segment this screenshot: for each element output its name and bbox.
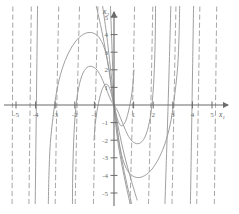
y-tick-label--4: -4 [102, 172, 108, 180]
y-tick-label-2: 2 [105, 66, 109, 74]
plot-canvas: -5-4-3-2-112345-5-4-3-2-112345 x1 x2 [0, 0, 239, 214]
x-tick-label--2: -2 [72, 111, 78, 119]
x-tick-label-3: 3 [171, 111, 175, 119]
y-tick-label--2: -2 [102, 137, 108, 145]
x-tick-label-2: 2 [151, 111, 155, 119]
x-tick-label--4: -4 [33, 111, 39, 119]
y-tick-label-1: 1 [105, 84, 109, 92]
x-tick-label--5: -5 [13, 111, 19, 119]
x-tick-label--3: -3 [52, 111, 58, 119]
y-tick-label-3: 3 [105, 49, 109, 57]
x-tick-label-5: 5 [210, 111, 214, 119]
y-tick-label-4: 4 [105, 31, 109, 39]
phase-portrait-figure: -5-4-3-2-112345-5-4-3-2-112345 x1 x2 [0, 0, 239, 214]
x-tick-label--1: -1 [91, 111, 97, 119]
y-tick-label--1: -1 [102, 119, 108, 127]
x-tick-label-4: 4 [191, 111, 195, 119]
x-tick-label-1: 1 [132, 111, 136, 119]
y-tick-label--5: -5 [102, 190, 108, 198]
y-tick-label--3: -3 [102, 154, 108, 162]
